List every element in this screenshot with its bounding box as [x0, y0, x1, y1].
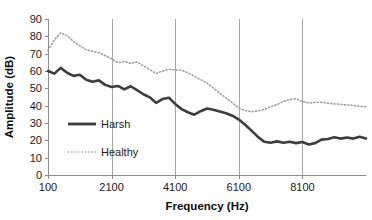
y-tick-label-90: 90 — [30, 13, 42, 25]
y-tick-label-50: 50 — [30, 82, 42, 94]
y-tick-label-40: 40 — [30, 100, 42, 112]
y-tick-label-70: 70 — [30, 48, 42, 60]
x-axis-title: Frequency (Hz) — [165, 200, 248, 212]
y-tick-label-20: 20 — [30, 134, 42, 146]
y-axis-title: Amplitude (dB) — [3, 56, 15, 139]
x-tick-label-8100: 8100 — [290, 181, 314, 193]
y-tick-label-80: 80 — [30, 30, 42, 42]
y-tick-label-0: 0 — [36, 169, 42, 181]
chart-container: 0102030405060708090 1002100410061008100 … — [0, 0, 372, 220]
x-tick-label-100: 100 — [39, 181, 57, 193]
y-tick-label-10: 10 — [30, 152, 42, 164]
x-tick-label-4100: 4100 — [163, 181, 187, 193]
x-tick-label-2100: 2100 — [99, 181, 123, 193]
x-tick-label-6100: 6100 — [227, 181, 251, 193]
legend-label-healthy: Healthy — [101, 146, 139, 158]
y-tick-label-30: 30 — [30, 117, 42, 129]
amplitude-frequency-line-chart: 0102030405060708090 1002100410061008100 … — [0, 0, 372, 220]
y-tick-label-60: 60 — [30, 65, 42, 77]
legend-label-harsh: Harsh — [101, 118, 130, 130]
